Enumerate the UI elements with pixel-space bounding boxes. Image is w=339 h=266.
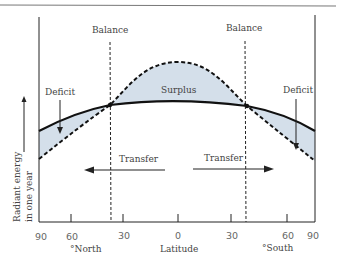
deficit-label-left: Deficit (45, 87, 75, 97)
south-label: °South (262, 243, 293, 253)
balance-line-right (245, 41, 246, 222)
balance-label-left: Balance (92, 25, 128, 35)
x-tick-label-0: 0 (175, 230, 181, 241)
balance-label-right: Balance (226, 23, 262, 33)
transfer-label-right: Transfer (204, 153, 244, 163)
x-tick-label-90n: 90 (35, 231, 47, 242)
north-label: °North (70, 244, 102, 254)
top-rule (0, 5, 336, 6)
y-axis-arrowhead (22, 96, 27, 102)
transfer-arrowhead-right (264, 166, 274, 173)
deficit-label-right: Deficit (283, 85, 313, 95)
x-tick-label-60n: 60 (66, 231, 78, 242)
x-tick-label-30s: 30 (226, 230, 238, 241)
balance-line-left (110, 42, 111, 222)
transfer-label-left: Transfer (119, 154, 159, 164)
energy-balance-diagram: Balance Balance Surplus Deficit Deficit … (0, 0, 339, 266)
surplus-label: Surplus (161, 85, 197, 95)
balance-point-right (245, 104, 249, 108)
balance-point-left (108, 103, 112, 107)
transfer-arrowhead-left (84, 167, 94, 174)
x-tick-label-60s: 60 (282, 230, 294, 241)
latitude-label: Latitude (160, 244, 198, 254)
x-tick-label-30n: 30 (118, 230, 130, 241)
y-axis-label-line1: Radiant energy (12, 151, 22, 222)
y-axis-label-line2: in one year (24, 170, 34, 222)
x-tick-label-90s: 90 (307, 230, 319, 241)
